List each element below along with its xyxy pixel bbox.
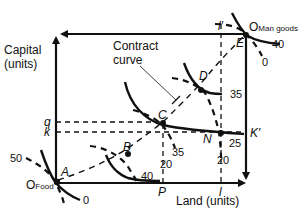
point-d: D <box>199 69 208 83</box>
edgeworth-box-diagram: Capital (units) Land (units) Contract cu… <box>0 0 306 220</box>
xlabel: Land (units) <box>176 194 239 208</box>
contract-curve-label-2: curve <box>113 53 143 67</box>
ylabel-line1: Capital <box>4 43 41 57</box>
origin-food-label: OFood <box>26 178 54 192</box>
isoquant-label-25-n: 25 <box>229 137 241 149</box>
contract-curve-pointer <box>140 66 176 100</box>
isoquant-label-0-man: 0 <box>262 56 268 68</box>
point-k: k <box>44 125 51 139</box>
point-l-prime: l′ <box>218 19 224 33</box>
point-p: P <box>158 185 166 199</box>
isoquant-label-0-food: 0 <box>83 194 89 206</box>
isoquant-label-50: 50 <box>10 152 22 164</box>
food-isoquants <box>41 13 280 200</box>
point-k-prime: K′ <box>250 126 261 140</box>
contract-curve-label-1: Contract <box>113 39 159 53</box>
point-a: A <box>60 165 69 179</box>
point-b: B <box>123 140 131 154</box>
man-isoquant-35-c <box>133 110 175 148</box>
isoquant-label-20-b: 20 <box>160 158 172 170</box>
isoquant-label-35-d: 35 <box>230 88 242 100</box>
origin-man-goods-label: OMan goods <box>249 20 298 34</box>
point-e: E <box>236 36 245 50</box>
food-isoquant-25-c-n <box>125 82 244 134</box>
ylabel-line2: (units) <box>4 57 37 71</box>
point-c: C <box>158 108 167 122</box>
isoquant-label-40-man: 40 <box>272 38 284 50</box>
isoquant-label-35-c: 35 <box>172 146 184 158</box>
point-l: l <box>219 185 222 199</box>
point-n: N <box>203 132 212 146</box>
isoquant-label-20-n: 20 <box>217 154 229 166</box>
isoquant-label-40-b: 40 <box>141 170 153 182</box>
